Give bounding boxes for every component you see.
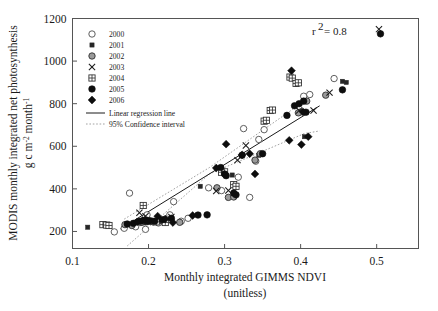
- r-squared-symbol: r: [312, 25, 316, 37]
- data-point: [344, 80, 348, 84]
- data-point: [300, 98, 307, 105]
- data-point: [259, 150, 266, 157]
- data-point: [284, 112, 291, 119]
- data-point: [256, 136, 262, 142]
- y-axis-title-main: MODIS monthly integrated net photosynthe…: [7, 25, 20, 241]
- y-tick-label: 600: [49, 140, 67, 152]
- legend-label-2001: 2001: [109, 41, 124, 50]
- legend-label-confidence: 95% Confidence interval: [109, 120, 185, 129]
- y-tick-label: 1000: [44, 55, 67, 67]
- data-point: [331, 75, 337, 81]
- legend-marker-2002: [89, 53, 95, 59]
- scatter-plot: 0.10.20.30.40.5 20040060080010001200 200…: [0, 0, 438, 311]
- legend-label-2005: 2005: [109, 85, 124, 94]
- data-point: [106, 222, 112, 228]
- data-point: [307, 91, 313, 97]
- x-axis-title-units: (unitless): [224, 287, 267, 300]
- legend-label-2002: 2002: [109, 52, 124, 61]
- data-point: [140, 202, 146, 208]
- x-tick-label: 0.5: [369, 255, 384, 267]
- x-tick-label: 0.2: [141, 255, 156, 267]
- data-point: [223, 172, 230, 179]
- data-point: [339, 87, 346, 94]
- data-point: [177, 219, 183, 225]
- legend-label-2000: 2000: [109, 30, 124, 39]
- data-point: [198, 184, 202, 188]
- legend-marker-2000: [89, 31, 95, 37]
- data-point: [240, 125, 246, 131]
- y-tick-label: 400: [49, 183, 67, 195]
- data-point: [111, 229, 117, 235]
- data-point: [230, 173, 234, 177]
- y-tick-label: 800: [49, 98, 67, 110]
- y-tick-label: 1200: [44, 13, 67, 25]
- data-point: [263, 117, 269, 123]
- y-tick-label: 200: [49, 225, 67, 237]
- y-units-exp2: -1: [22, 98, 31, 104]
- legend-label-regression: Linear regression line: [109, 109, 176, 118]
- figure-container: 0.10.20.30.40.5 20040060080010001200 200…: [0, 0, 438, 311]
- x-axis-title-main: Monthly integrated GIMMS NDVI: [164, 271, 326, 284]
- y-axis-title-units: g c m-2 month-1: [22, 98, 36, 169]
- data-point: [233, 192, 240, 199]
- legend-marker-2005: [89, 86, 96, 93]
- y-units-part2: month: [22, 104, 34, 137]
- data-point: [261, 126, 267, 132]
- data-point: [323, 92, 329, 98]
- legend-label-2004: 2004: [109, 74, 124, 83]
- data-point: [205, 185, 211, 191]
- x-tick-label: 0.1: [65, 255, 80, 267]
- r-squared-exponent: 2: [318, 20, 324, 32]
- legend-label-2003: 2003: [109, 63, 124, 72]
- data-point: [269, 107, 275, 113]
- data-point: [235, 174, 241, 180]
- r-squared-value: = 0.8: [324, 25, 347, 37]
- data-point: [246, 194, 252, 200]
- data-point: [86, 225, 90, 229]
- x-tick-label: 0.3: [217, 255, 232, 267]
- data-point: [126, 190, 132, 196]
- data-point: [295, 80, 301, 86]
- legend-label-2006: 2006: [109, 96, 124, 105]
- legend-marker-2001: [90, 43, 94, 47]
- data-point: [124, 221, 131, 228]
- data-point: [204, 212, 211, 219]
- data-point: [170, 198, 176, 204]
- data-point: [252, 157, 258, 163]
- x-tick-label: 0.4: [293, 255, 308, 267]
- data-point: [233, 183, 239, 189]
- legend-marker-2004: [89, 75, 95, 81]
- y-units-part1: g c m: [22, 143, 35, 169]
- data-point: [142, 226, 148, 232]
- data-point: [377, 31, 384, 38]
